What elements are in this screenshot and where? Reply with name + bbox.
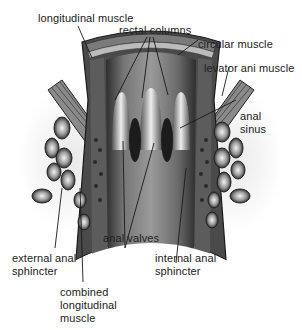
label-rectal-columns: rectal columns [119, 24, 191, 37]
label-anal-sinus: anal sinus [240, 110, 266, 136]
anal-sinus-2 [161, 118, 173, 162]
label-internal-anal-sphincter: internal anal sphincter [155, 252, 216, 278]
anal-sinus-1 [129, 118, 141, 162]
label-levator-ani-muscle: levator ani muscle [204, 62, 294, 75]
label-anal-valves: anal valves [103, 232, 159, 245]
label-circular-muscle: circular muscle [198, 38, 273, 51]
label-external-anal-sphincter: external anal sphincter [12, 252, 76, 278]
label-combined-longitudinal-muscle: combined longitudinal muscle [60, 286, 117, 325]
anal-canal-lumen [106, 52, 196, 262]
anatomy-diagram: longitudinal muscle rectal columns circu… [0, 0, 302, 330]
